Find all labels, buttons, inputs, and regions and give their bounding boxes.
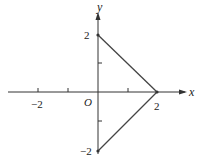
x-tick-label-2: 2 [154,100,160,112]
vertex-2-0 [155,90,158,93]
y-axis-label: y [96,0,103,14]
origin-label: O [84,96,92,108]
vertex-0-neg2 [96,149,99,152]
y-tick-label-2: 2 [84,29,90,41]
x-axis-arrow-icon [179,90,187,95]
coordinate-plot: y x O −2 2 2 −2 [0,0,197,156]
vertex-0-2 [96,33,99,36]
x-axis-label: x [188,85,195,99]
segment-bottom [98,92,157,151]
segment-top [98,35,157,92]
y-tick-label-neg2: −2 [80,145,92,156]
x-tick-label-neg2: −2 [31,98,43,110]
